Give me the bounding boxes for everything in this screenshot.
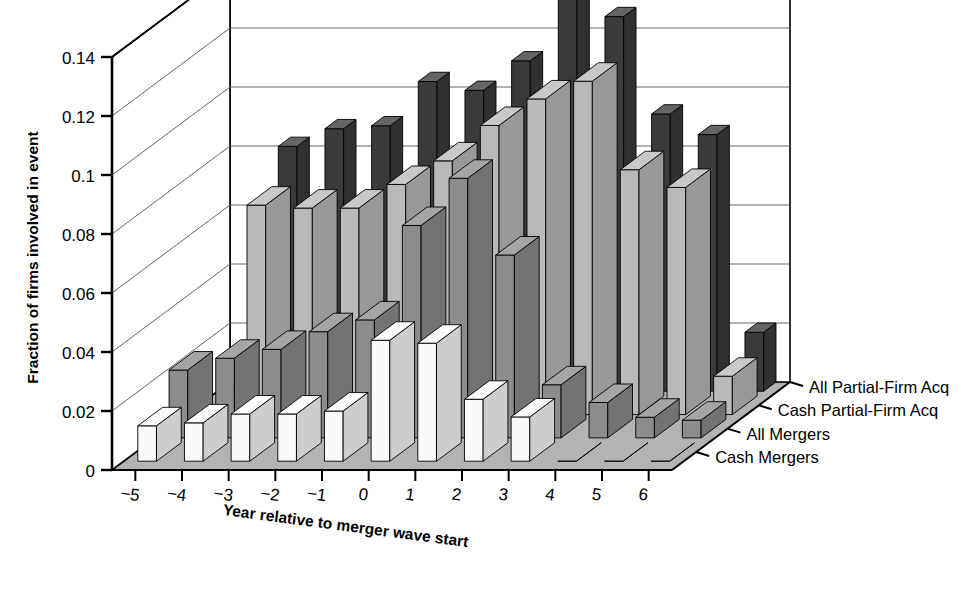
x-tick-label: 5: [591, 485, 603, 505]
legend-label-2: All Mergers: [746, 425, 829, 443]
bar-front-face: [636, 417, 655, 438]
y-tick-label: 0: [86, 462, 95, 481]
y-tick-label: 0.04: [62, 344, 95, 363]
legend-label-1: Cash Partial-Firm Acq: [778, 401, 938, 419]
bar: [371, 322, 414, 461]
legend-label-0: All Partial-Firm Acq: [809, 378, 949, 396]
x-tick-label: 6: [637, 485, 649, 505]
bar-side-face: [436, 325, 461, 461]
x-tick-label: 0: [357, 485, 369, 505]
bar-side-face: [764, 323, 776, 391]
bar-front-face: [620, 170, 639, 415]
bar-front-face: [278, 414, 297, 461]
bar-front-face: [589, 402, 608, 437]
x-axis-title: Year relative to merger wave start: [222, 501, 469, 550]
x-tick-label: 1: [404, 485, 416, 505]
bar-front-face: [574, 81, 593, 414]
depth-axis-tick: [696, 452, 709, 456]
y-tick-label: 0.08: [62, 226, 95, 245]
bar-front-face: [418, 343, 437, 461]
bar-front-face: [667, 187, 686, 414]
bar: [620, 151, 663, 414]
bar-front-face: [184, 423, 203, 461]
bar-side-face: [546, 80, 571, 414]
y-tick-label: 0.12: [62, 108, 95, 127]
bar-front-face: [324, 411, 343, 461]
depth-axis-tick: [727, 429, 740, 433]
bar-front-face: [511, 417, 530, 461]
bar: [667, 169, 710, 415]
bar-front-face: [682, 420, 701, 438]
bar-side-face: [686, 169, 711, 415]
bar-chart-3d: 00.020.040.060.080.10.120.14Fraction of …: [0, 0, 963, 606]
x-tick-label: 4: [544, 485, 556, 505]
bar: [418, 325, 461, 461]
y-axis-title: Fraction of firms involved in event: [24, 131, 41, 383]
x-tick-label: −1: [306, 484, 328, 505]
bar-front-face: [464, 399, 483, 461]
x-tick-label: −5: [119, 484, 141, 505]
bar: [574, 63, 617, 415]
bar-side-face: [390, 322, 415, 461]
bar-side-face: [639, 151, 664, 414]
depth-axis-tick: [790, 382, 803, 386]
depth-axis-tick: [759, 405, 772, 409]
legend-label-3: Cash Mergers: [715, 448, 819, 466]
x-tick-label: 3: [497, 485, 509, 505]
bar-front-face: [371, 340, 390, 461]
y-tick-label: 0.14: [62, 49, 95, 68]
x-tick-label: 2: [451, 485, 463, 505]
x-tick-label: −4: [166, 484, 188, 505]
bar-side-face: [592, 63, 617, 415]
bar-front-face: [231, 414, 250, 461]
chart-figure: 00.020.040.060.080.10.120.14Fraction of …: [0, 0, 963, 606]
y-tick-label: 0.06: [62, 285, 95, 304]
bar-front-face: [138, 426, 157, 461]
x-tick-label: −2: [259, 484, 281, 505]
y-tick-label: 0.1: [71, 167, 95, 186]
y-tick-label: 0.02: [62, 403, 95, 422]
bar-side-face: [717, 125, 729, 391]
